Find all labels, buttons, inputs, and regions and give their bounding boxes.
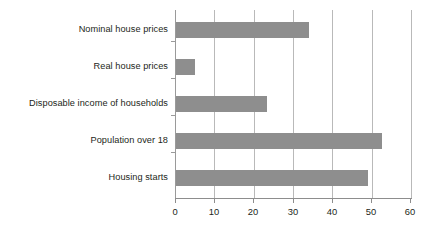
category-label-population-over-18: Population over 18 xyxy=(0,135,168,146)
x-axis-tick-20 xyxy=(253,198,254,203)
x-axis-label-30: 30 xyxy=(278,206,308,217)
gridline-60 xyxy=(411,10,412,198)
bar-population-over-18 xyxy=(175,133,382,149)
y-axis-line xyxy=(175,10,176,198)
x-axis-label-60: 60 xyxy=(395,206,425,217)
category-axis-labels: Nominal house prices Real house prices D… xyxy=(0,10,172,198)
bar-housing-starts xyxy=(175,170,368,186)
x-axis-tick-40 xyxy=(332,198,333,203)
x-axis-tick-0 xyxy=(175,198,176,203)
y-axis-tick-3 xyxy=(171,115,176,116)
x-axis-label-20: 20 xyxy=(238,206,268,217)
x-axis-tick-30 xyxy=(293,198,294,203)
x-axis-tick-50 xyxy=(371,198,372,203)
category-label-nominal-house-prices: Nominal house prices xyxy=(0,24,168,35)
gridline-50 xyxy=(372,10,373,198)
bar-disposable-income-of-households xyxy=(175,96,267,112)
x-axis-tick-60 xyxy=(410,198,411,203)
y-axis-tick-2 xyxy=(171,78,176,79)
y-axis-tick-1 xyxy=(171,41,176,42)
x-axis-tick-10 xyxy=(214,198,215,203)
y-axis-tick-4 xyxy=(171,152,176,153)
category-label-disposable-income-of-households: Disposable income of households xyxy=(0,98,168,109)
bar-chart: Nominal house prices Real house prices D… xyxy=(0,0,441,232)
bar-real-house-prices xyxy=(175,59,195,75)
x-axis-label-10: 10 xyxy=(199,206,229,217)
bar-nominal-house-prices xyxy=(175,22,309,38)
plot-area xyxy=(175,10,411,198)
x-axis-label-50: 50 xyxy=(356,206,386,217)
x-axis-label-40: 40 xyxy=(317,206,347,217)
x-axis-label-0: 0 xyxy=(160,206,190,217)
category-label-housing-starts: Housing starts xyxy=(0,172,168,183)
category-label-real-house-prices: Real house prices xyxy=(0,61,168,72)
